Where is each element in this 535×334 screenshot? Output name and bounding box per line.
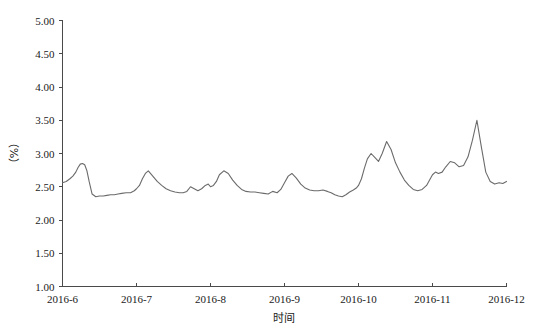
- y-tick-label: 4.50: [35, 48, 55, 60]
- y-tick-label: 3.00: [35, 148, 55, 160]
- x-tick-label: 2016-10: [340, 293, 377, 305]
- x-tick-label: 2016-6: [47, 293, 79, 305]
- x-tick-label: 2016-11: [414, 293, 450, 305]
- x-tick-label: 2016-9: [269, 293, 301, 305]
- x-tick-label: 2016-8: [195, 293, 227, 305]
- y-tick-label: 3.50: [35, 114, 55, 126]
- x-tick-label: 2016-12: [488, 293, 525, 305]
- x-axis-title: 时间: [273, 312, 295, 325]
- y-tick-label: 1.00: [35, 281, 55, 293]
- y-tick-label: 4.00: [35, 81, 55, 93]
- y-tick-label: 2.00: [35, 214, 55, 226]
- y-tick-label: 2.50: [35, 181, 55, 193]
- axis-frame: [63, 21, 507, 287]
- line-chart: 1.001.502.002.503.003.504.004.505.00 201…: [0, 0, 535, 334]
- chart-container: 1.001.502.002.503.003.504.004.505.00 201…: [0, 0, 535, 334]
- y-axis-title: （%）: [8, 137, 21, 169]
- y-tick-label: 5.00: [35, 15, 55, 27]
- y-tick-label: 1.50: [35, 247, 55, 259]
- data-line-series-0: [63, 120, 507, 196]
- y-axis-ticks: 1.001.502.002.503.003.504.004.505.00: [35, 15, 62, 293]
- x-axis-ticks: 2016-62016-72016-82016-92016-102016-1120…: [47, 283, 525, 305]
- x-tick-label: 2016-7: [121, 293, 153, 305]
